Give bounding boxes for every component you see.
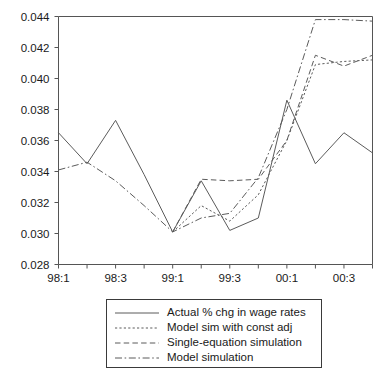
data-series-group <box>59 20 373 232</box>
x-tick-label: 98:1 <box>47 272 69 284</box>
legend-item: Single-equation simulation <box>107 335 321 350</box>
series-line <box>173 55 373 232</box>
x-tick-label: 00:1 <box>276 272 298 284</box>
x-tick-label: 99:3 <box>219 272 241 284</box>
x-tick-label: 98:3 <box>104 272 126 284</box>
series-line <box>59 100 373 232</box>
y-tick-label: 0.034 <box>21 166 50 178</box>
axis-tick-marks <box>55 17 373 269</box>
legend-line-swatch <box>114 307 160 318</box>
series-line <box>59 20 373 232</box>
chart-screenshot: 0.0280.0300.0320.0340.0360.0380.0400.042… <box>0 0 387 380</box>
y-tick-label: 0.042 <box>21 42 50 54</box>
y-tick-label: 0.036 <box>21 135 50 147</box>
chart-legend: Actual % chg in wage ratesModel sim with… <box>106 299 322 368</box>
y-axis-tick-labels: 0.0280.0300.0320.0340.0360.0380.0400.042… <box>21 11 50 271</box>
axis-frame <box>59 17 373 265</box>
legend-line-swatch <box>114 322 160 333</box>
y-tick-label: 0.030 <box>21 228 50 240</box>
legend-item: Actual % chg in wage rates <box>107 305 321 320</box>
x-axis-tick-labels: 98:198:399:199:300:100:3 <box>47 272 355 284</box>
legend-item-label: Single-equation simulation <box>167 336 302 349</box>
y-tick-label: 0.040 <box>21 73 50 85</box>
legend-line-swatch <box>114 352 160 363</box>
series-line <box>173 60 373 232</box>
chart-plot-area: 0.0280.0300.0320.0340.0360.0380.0400.042… <box>0 0 387 290</box>
y-tick-label: 0.044 <box>21 11 50 23</box>
legend-item-label: Model sim with const adj <box>167 321 292 334</box>
legend-line-swatch <box>114 337 160 348</box>
y-tick-label: 0.038 <box>21 104 50 116</box>
y-tick-label: 0.032 <box>21 197 50 209</box>
x-tick-label: 99:1 <box>161 272 183 284</box>
legend-item-label: Model simulation <box>167 351 253 364</box>
y-tick-label: 0.028 <box>21 259 50 271</box>
legend-item: Model simulation <box>107 350 321 365</box>
legend-item-label: Actual % chg in wage rates <box>167 306 306 319</box>
x-tick-label: 00:3 <box>333 272 355 284</box>
line-chart-figure: 0.0280.0300.0320.0340.0360.0380.0400.042… <box>0 0 387 290</box>
legend-item: Model sim with const adj <box>107 320 321 335</box>
